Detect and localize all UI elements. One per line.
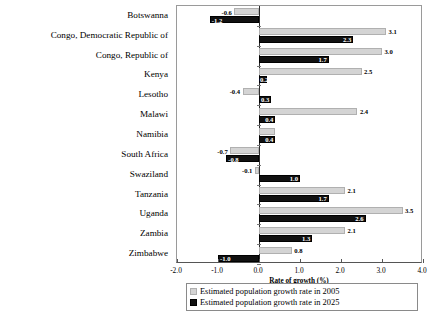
- y-axis-tick: [257, 46, 261, 47]
- y-axis-tick: [257, 145, 261, 146]
- bar-2005: [259, 227, 345, 234]
- legend-swatch-2005-icon: [190, 288, 197, 295]
- bar-value-label: 0.4: [265, 116, 273, 123]
- legend-swatch-2025-icon: [190, 299, 197, 306]
- category-label: Malawi: [140, 109, 168, 119]
- bar-value-label: 2.5: [364, 68, 372, 75]
- bar-value-label: 3.0: [385, 48, 393, 55]
- legend-item-2025: Estimated population growth rate in 2025: [190, 297, 414, 308]
- bar-value-label: 3.5: [405, 207, 413, 214]
- bar-value-label: 1.0: [290, 175, 298, 182]
- x-axis-tick: [341, 259, 342, 263]
- category-label: Zambia: [140, 228, 168, 238]
- bar-2005: [243, 88, 259, 95]
- category-label: Botswanna: [127, 10, 168, 20]
- bar-2005: [259, 187, 345, 194]
- bar-2005: [230, 147, 259, 154]
- x-axis-tick-label: 1.0: [294, 266, 303, 275]
- y-axis-tick: [257, 185, 261, 186]
- bar-value-label: 2.4: [360, 108, 368, 115]
- x-axis-tick: [218, 259, 219, 263]
- category-label: Namibia: [136, 129, 168, 139]
- x-axis-tick-label: 2.0: [335, 266, 344, 275]
- category-label: Kenya: [144, 69, 168, 79]
- bar-2005: [259, 128, 275, 135]
- x-axis-tick-label: -1.0: [211, 266, 223, 275]
- category-label: South Africa: [121, 149, 168, 159]
- bar-value-label: -0.8: [228, 156, 238, 163]
- bar-value-label: 2.1: [348, 187, 356, 194]
- x-axis-tick: [300, 259, 301, 263]
- bar-value-label: 2.3: [343, 36, 351, 43]
- y-axis-tick: [257, 204, 261, 205]
- bar-value-label: -1.0: [220, 255, 230, 262]
- y-axis-tick: [257, 165, 261, 166]
- x-axis-tick-label: 3.0: [376, 266, 385, 275]
- bar-2005: [259, 108, 357, 115]
- bar-value-label: -0.4: [230, 88, 240, 95]
- y-axis-tick: [257, 224, 261, 225]
- bar-value-label: 2.1: [348, 227, 356, 234]
- y-axis-tick: [257, 105, 261, 106]
- bar-value-label: -0.1: [242, 167, 252, 174]
- y-axis-tick: [257, 26, 261, 27]
- bar-value-label: -1.2: [212, 17, 222, 24]
- bar-2005: [259, 48, 382, 55]
- bar-2005: [255, 167, 259, 174]
- bar-value-label: 1.7: [318, 56, 326, 63]
- legend-label-2025: Estimated population growth rate in 2025: [200, 297, 339, 308]
- bar-2005: [259, 207, 403, 214]
- population-growth-bar-chart: BotswannaCongo, Democratic Republic ofCo…: [0, 0, 436, 315]
- x-axis-tick-label: -2.0: [170, 266, 182, 275]
- x-axis-tick: [382, 259, 383, 263]
- x-axis-tick: [177, 259, 178, 263]
- legend-item-2005: Estimated population growth rate in 2005: [190, 286, 414, 297]
- x-axis-tick: [259, 259, 260, 263]
- bar-2005: [259, 28, 386, 35]
- x-axis-tick-label: 0.0: [253, 266, 262, 275]
- bar-value-label: 0.4: [265, 136, 273, 143]
- category-label: Congo, Republic of: [96, 50, 168, 60]
- bar-2005: [234, 8, 259, 15]
- category-label: Swaziland: [130, 169, 168, 179]
- category-label: Congo, Democratic Republic of: [51, 30, 168, 40]
- category-label: Uganda: [139, 208, 168, 218]
- x-axis-tick: [423, 259, 424, 263]
- x-axis-tick-label: 4.0: [417, 266, 426, 275]
- category-label: Zimbabwe: [129, 248, 168, 258]
- y-axis-tick: [257, 66, 261, 67]
- bar-value-label: 0.8: [294, 247, 302, 254]
- bar-2025: [259, 36, 353, 43]
- bar-value-label: 1.3: [302, 235, 310, 242]
- bar-value-label: 0.2: [260, 76, 268, 83]
- bar-value-label: -0.7: [217, 148, 227, 155]
- y-axis-tick: [257, 125, 261, 126]
- bar-value-label: 0.3: [261, 96, 269, 103]
- y-axis-tick: [257, 244, 261, 245]
- bar-2025: [259, 215, 366, 222]
- bar-2005: [259, 68, 362, 75]
- y-axis-tick: [257, 264, 261, 265]
- bar-value-label: 3.1: [389, 28, 397, 35]
- y-axis-tick: [257, 85, 261, 86]
- category-label: Lesotho: [138, 89, 168, 99]
- bar-value-label: 2.6: [355, 215, 363, 222]
- bar-value-label: -0.6: [221, 9, 231, 16]
- bar-2005: [259, 247, 292, 254]
- chart-legend: Estimated population growth rate in 2005…: [186, 283, 418, 311]
- legend-label-2005: Estimated population growth rate in 2005: [200, 286, 339, 297]
- category-axis-labels: BotswannaCongo, Democratic Republic ofCo…: [0, 5, 172, 263]
- plot-area: -0.6-1.23.12.33.01.72.50.2-0.40.32.40.40…: [176, 5, 422, 263]
- bar-value-label: 1.7: [318, 195, 326, 202]
- category-label: Tanzania: [135, 189, 168, 199]
